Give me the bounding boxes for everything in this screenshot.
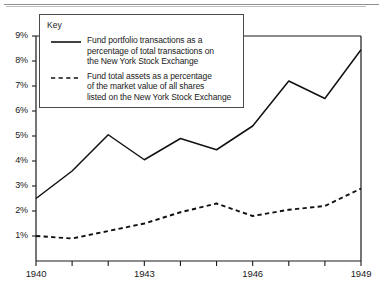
y-axis-tick-label: 8% — [2, 56, 28, 65]
legend-title: Key — [47, 20, 237, 30]
legend-entry-label: Fund portfolio transactions as a percent… — [87, 35, 214, 67]
legend-entry-total-assets: Fund total assets as a percentage of the… — [47, 71, 237, 103]
series-line-total-assets — [36, 189, 361, 239]
x-axis-tick-label: 1949 — [341, 269, 381, 279]
x-axis-tick-label: 1946 — [233, 269, 273, 279]
chart-figure: 9%8%7%6%5%4%3%2%1% 1940194319461949 Key … — [0, 0, 383, 281]
y-axis-tick-label: 5% — [2, 131, 28, 140]
x-axis-tick-label: 1943 — [124, 269, 164, 279]
x-axis-tick-label: 1940 — [16, 269, 56, 279]
dashed-line-icon — [51, 71, 81, 97]
legend-entry-label: Fund total assets as a percentage of the… — [87, 71, 231, 103]
y-axis-tick-label: 9% — [2, 31, 28, 40]
y-axis-tick-label: 3% — [2, 181, 28, 190]
y-axis-tick-label: 1% — [2, 231, 28, 240]
y-axis-tick-label: 7% — [2, 81, 28, 90]
solid-line-icon — [51, 35, 81, 61]
y-axis-tick-label: 6% — [2, 106, 28, 115]
y-axis-tick-label: 4% — [2, 156, 28, 165]
chart-legend: Key Fund portfolio transactions as a per… — [39, 14, 244, 108]
y-axis-tick-label: 2% — [2, 206, 28, 215]
legend-entry-portfolio-transactions: Fund portfolio transactions as a percent… — [47, 35, 237, 67]
